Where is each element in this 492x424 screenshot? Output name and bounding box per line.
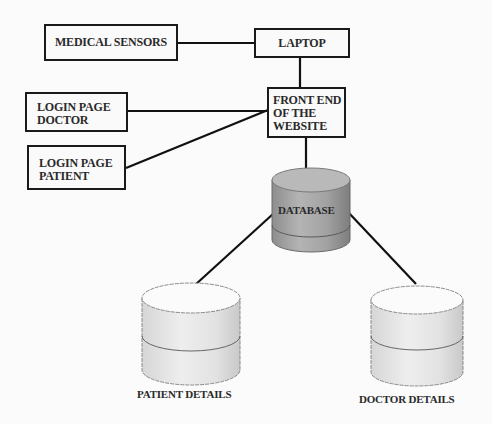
node-front-end-website: FRONT END OF THE WEBSITE bbox=[267, 87, 346, 138]
patient-details-label: PATIENT DETAILS bbox=[137, 388, 231, 400]
edge-login-patient-frontend bbox=[126, 110, 268, 168]
node-login-page-doctor: LOGIN PAGE DOCTOR bbox=[25, 92, 128, 132]
node-label-line2: DOCTOR bbox=[37, 114, 126, 127]
diagram-canvas: MEDICAL SENSORS LAPTOP LOGIN PAGE DOCTOR… bbox=[0, 0, 492, 424]
edges bbox=[126, 43, 416, 285]
edge-database-doctor bbox=[348, 212, 416, 284]
connectors-and-cylinders bbox=[0, 0, 492, 424]
doctor-details-label: DOCTOR DETAILS bbox=[359, 393, 455, 405]
node-laptop: LAPTOP bbox=[254, 28, 350, 58]
node-label: MEDICAL SENSORS bbox=[55, 36, 167, 49]
node-login-page-patient: LOGIN PAGE PATIENT bbox=[27, 145, 126, 190]
node-label: LAPTOP bbox=[278, 37, 325, 50]
node-medical-sensors: MEDICAL SENSORS bbox=[44, 24, 178, 61]
patient-details-cylinder bbox=[142, 283, 240, 385]
doctor-details-cylinder bbox=[371, 286, 463, 386]
node-label-line2: PATIENT bbox=[39, 170, 124, 183]
edge-database-patient bbox=[195, 214, 273, 285]
database-label: DATABASE bbox=[278, 204, 335, 216]
node-label-line3: WEBSITE bbox=[273, 120, 344, 133]
